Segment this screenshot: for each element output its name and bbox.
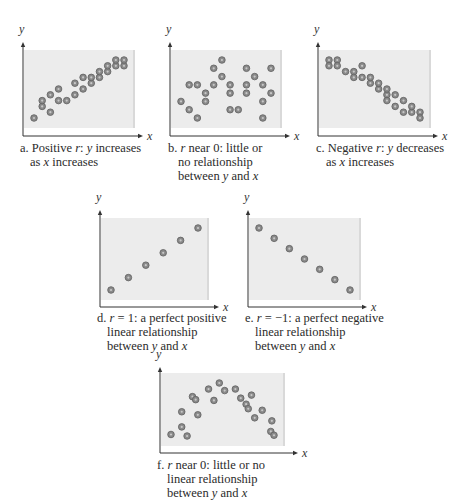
data-point	[192, 396, 199, 403]
data-point	[216, 380, 223, 387]
data-point	[251, 415, 258, 422]
scatter-plot-f: yx	[0, 0, 468, 502]
y-axis-arrow-icon	[158, 367, 162, 372]
data-point	[269, 418, 276, 425]
data-point	[237, 395, 244, 402]
x-axis-label: x	[301, 446, 308, 460]
caption-f: f. r near 0: little or no linear relatio…	[157, 458, 265, 500]
caption-f-line1: f. r near 0: little or no	[157, 458, 265, 472]
data-point	[259, 407, 266, 414]
scatter-panel-f: yx f. r near 0: little or no linear rela…	[0, 0, 468, 502]
data-point	[168, 431, 175, 438]
y-axis-label: y	[155, 347, 162, 361]
data-point	[178, 424, 185, 431]
data-point	[248, 392, 255, 399]
data-point	[211, 397, 218, 404]
x-axis-arrow-icon	[293, 451, 298, 455]
data-point	[245, 405, 252, 412]
data-point	[184, 433, 191, 440]
caption-f-line3: between y and x	[157, 486, 265, 500]
data-point	[195, 412, 202, 419]
data-point	[232, 386, 239, 393]
caption-f-line2: linear relationship	[157, 472, 265, 486]
data-point	[271, 432, 278, 439]
data-point	[178, 408, 185, 415]
data-point	[205, 386, 212, 393]
data-point	[221, 387, 228, 394]
